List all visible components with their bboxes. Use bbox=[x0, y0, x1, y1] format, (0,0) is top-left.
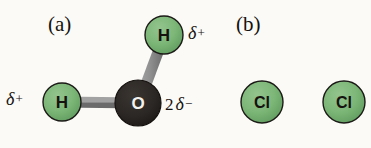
partial-charge-hydrogen-top: δ+ bbox=[188, 23, 205, 44]
delta-symbol: δ bbox=[176, 94, 184, 114]
panel-b-label: (b) bbox=[236, 12, 261, 37]
atom-oxygen-sphere bbox=[115, 80, 161, 126]
charge-coefficient: 2 bbox=[165, 95, 176, 114]
minus-sign: − bbox=[184, 96, 192, 111]
atom-hydrogen-top-sphere bbox=[145, 16, 183, 54]
atom-hydrogen-left: H bbox=[43, 83, 81, 121]
partial-charge-hydrogen-left: δ+ bbox=[6, 89, 23, 110]
atom-chlorine-right: Cl bbox=[323, 81, 365, 123]
partial-charge-oxygen: 2δ− bbox=[165, 94, 192, 115]
atom-chlorine-left-sphere bbox=[241, 81, 283, 123]
atom-hydrogen-top: H bbox=[145, 16, 183, 54]
atom-chlorine-left: Cl bbox=[241, 81, 283, 123]
panel-a-label: (a) bbox=[48, 12, 71, 37]
atom-oxygen: O bbox=[115, 80, 161, 126]
atom-hydrogen-left-sphere bbox=[43, 83, 81, 121]
panel-b-chlorine-molecule: Cl Cl bbox=[241, 81, 365, 123]
molecular-polarity-figure: O H H Cl Cl ( bbox=[0, 0, 371, 148]
plus-sign: + bbox=[14, 91, 22, 106]
plus-sign: + bbox=[196, 25, 204, 40]
atom-chlorine-right-sphere bbox=[323, 81, 365, 123]
